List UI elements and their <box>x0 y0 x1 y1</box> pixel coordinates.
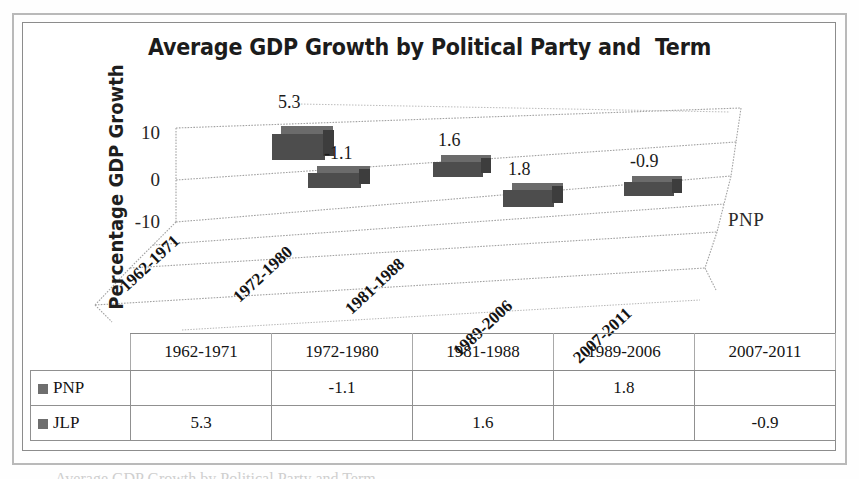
chart-title: Average GDP Growth by Political Party an… <box>0 34 859 60</box>
table-column-header-1989-2006: 1989-2006 <box>553 334 694 371</box>
table-cell-jlp-1989-2006 <box>553 406 694 441</box>
table-cell-pnp-1962-1971 <box>131 371 272 406</box>
table-column-header-1981-1988: 1981-1988 <box>413 334 554 371</box>
data-label-1-6: 1.6 <box>438 130 461 151</box>
data-label-5-3: 5.3 <box>278 92 301 113</box>
table-cell-pnp-1989-2006: 1.8 <box>553 371 694 406</box>
table-cell-jlp-1972-1980 <box>272 406 413 441</box>
bar-jlp-1981-1988 <box>433 155 491 177</box>
bar-pnp-1989-2006 <box>503 183 563 207</box>
bar-jlp-2007-2011 <box>624 176 682 196</box>
y-axis-title: Percentage GDP Growth <box>104 37 128 337</box>
legend-label-jlp: JLP <box>53 413 79 433</box>
table-column-header-1972-1980: 1972-1980 <box>272 334 413 371</box>
legend-label-pnp: PNP <box>53 378 84 398</box>
table-cell-jlp-1981-1988: 1.6 <box>413 406 554 441</box>
series-axis-label-pnp: PNP <box>728 209 764 231</box>
table-column-header-2007-2011: 2007-2011 <box>694 334 835 371</box>
table-row: PNP -1.1 1.8 <box>31 371 836 406</box>
table-row: JLP 5.3 1.6 -0.9 <box>31 406 836 441</box>
legend-swatch-pnp <box>38 384 48 394</box>
table-cell-pnp-1972-1980: -1.1 <box>272 371 413 406</box>
table-column-header-1962-1971: 1962-1971 <box>131 334 272 371</box>
table-cell-jlp-1962-1971: 5.3 <box>131 406 272 441</box>
bar-pnp-1972-1980 <box>308 166 370 188</box>
table-cell-pnp-2007-2011 <box>694 371 835 406</box>
legend-swatch-jlp <box>38 419 48 429</box>
legend-entry-jlp: JLP <box>31 406 131 441</box>
table-header-row: 1962-1971 1972-1980 1981-1988 1989-2006 … <box>31 334 836 371</box>
data-label-minus1-1: -1.1 <box>324 143 353 164</box>
data-label-minus0-9: -0.9 <box>630 151 659 172</box>
chart-data-table: 1962-1971 1972-1980 1981-1988 1989-2006 … <box>30 333 836 441</box>
data-label-1-8: 1.8 <box>508 159 531 180</box>
page-bottom-caption: Average GDP Growth by Political Party an… <box>55 470 555 479</box>
table-cell-jlp-2007-2011: -0.9 <box>694 406 835 441</box>
table-corner-cell <box>31 334 131 371</box>
scanned-page: Average GDP Growth by Political Party an… <box>0 0 859 479</box>
table-cell-pnp-1981-1988 <box>413 371 554 406</box>
legend-entry-pnp: PNP <box>31 371 131 406</box>
